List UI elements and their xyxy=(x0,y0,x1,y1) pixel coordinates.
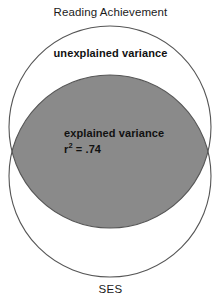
venn-diagram-figure: Reading Achievement unexplained variance… xyxy=(0,0,221,305)
top-set-label: Reading Achievement xyxy=(0,6,221,19)
r-squared-value: r2 = .74 xyxy=(64,142,164,158)
bottom-set-label: SES xyxy=(0,283,221,296)
unexplained-variance-label: unexplained variance xyxy=(0,47,221,60)
r-squared-equals-value: = .74 xyxy=(73,143,101,155)
overlap-region-fill xyxy=(9,75,211,277)
explained-variance-annotation: explained variance r2 = .74 xyxy=(64,126,164,157)
explained-variance-label: explained variance xyxy=(64,126,164,142)
